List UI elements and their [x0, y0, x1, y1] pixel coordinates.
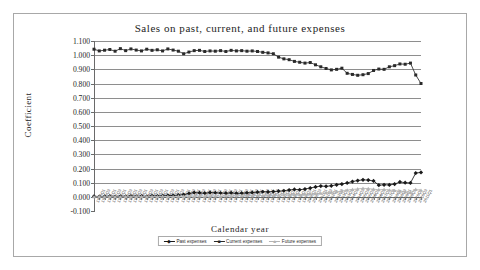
data-point-marker [356, 74, 359, 77]
data-point-marker [324, 184, 328, 188]
data-point-marker [329, 184, 333, 188]
data-point-marker [182, 52, 185, 55]
data-point-marker [314, 63, 317, 66]
legend-line-swatch: ◆ [164, 241, 175, 242]
data-point-marker [219, 49, 222, 52]
data-point-marker [351, 73, 354, 76]
data-point-marker [276, 189, 280, 193]
data-point-marker [303, 62, 306, 65]
legend-item[interactable]: ■Current expenses [214, 239, 263, 244]
series-layer [94, 41, 421, 211]
data-point-marker [135, 49, 138, 52]
legend-item[interactable]: ▲Future expenses [269, 239, 316, 244]
data-point-marker [267, 51, 270, 54]
data-point-marker [166, 47, 169, 50]
data-point-marker [340, 67, 343, 70]
data-point-marker [292, 187, 296, 191]
data-point-marker [372, 69, 375, 72]
data-point-marker [408, 181, 412, 185]
data-point-marker [277, 56, 280, 59]
data-point-marker [192, 190, 196, 194]
data-point-marker [313, 185, 317, 189]
data-point-marker [377, 68, 380, 71]
data-point-marker [156, 48, 159, 51]
data-point-marker [240, 49, 243, 52]
data-point-marker [382, 183, 386, 187]
legend-label: Past expenses [176, 239, 206, 244]
data-point-marker [367, 72, 370, 75]
data-point-marker [209, 49, 212, 52]
data-point-marker [214, 50, 217, 53]
data-point-marker [172, 49, 175, 52]
data-point-marker [230, 49, 233, 52]
data-point-marker [298, 188, 302, 192]
data-point-marker [151, 49, 154, 52]
data-point-marker [393, 182, 397, 186]
data-point-marker [140, 49, 143, 52]
data-point-marker [272, 52, 275, 55]
data-point-marker [361, 178, 365, 182]
data-point-marker [387, 183, 391, 187]
data-point-marker [330, 68, 333, 71]
data-point-marker [235, 49, 238, 52]
data-point-marker [288, 58, 291, 61]
data-point-marker [187, 51, 190, 54]
data-point-marker [303, 187, 307, 191]
data-point-marker [261, 51, 264, 54]
data-point-marker [145, 48, 148, 51]
data-point-marker [309, 61, 312, 64]
data-point-marker [319, 184, 323, 188]
series-line [94, 49, 421, 84]
data-point-marker [404, 63, 407, 66]
data-point-marker [271, 189, 275, 193]
data-point-marker [361, 73, 364, 76]
chart-legend: ◆Past expenses■Current expenses▲Future e… [158, 236, 322, 246]
data-point-marker [335, 183, 339, 187]
data-point-marker [293, 60, 296, 63]
y-axis-tick-mark [91, 211, 95, 212]
data-point-marker [393, 64, 396, 67]
data-point-marker [340, 182, 344, 186]
data-point-marker [409, 62, 412, 65]
legend-line-swatch: ■ [214, 241, 225, 242]
data-point-marker [319, 65, 322, 68]
data-point-marker [193, 49, 196, 52]
data-point-marker [103, 49, 106, 52]
data-point-marker [287, 188, 291, 192]
data-point-marker [282, 57, 285, 60]
data-point-marker [177, 50, 180, 53]
data-point-marker [345, 181, 349, 185]
x-axis-title: Calendar year [14, 224, 466, 234]
data-point-marker [350, 179, 354, 183]
data-point-marker [414, 74, 417, 77]
data-point-marker [298, 61, 301, 64]
data-point-marker [124, 49, 127, 52]
data-point-marker [366, 178, 370, 182]
legend-item[interactable]: ◆Past expenses [164, 239, 207, 244]
y-axis-title: Coefficient [23, 75, 33, 155]
data-point-marker [266, 190, 270, 194]
data-point-marker [383, 68, 386, 71]
data-point-marker [161, 49, 164, 52]
data-point-marker [398, 180, 402, 184]
data-point-marker [419, 170, 423, 174]
legend-label: Current expenses [226, 239, 262, 244]
data-point-marker [93, 48, 96, 51]
legend-line-swatch: ▲ [269, 241, 280, 242]
data-point-marker [129, 47, 132, 50]
data-point-marker [282, 189, 286, 193]
data-point-marker [420, 82, 423, 85]
data-point-marker [414, 171, 418, 175]
data-point-marker [245, 50, 248, 53]
data-point-marker [256, 50, 259, 53]
data-point-marker [98, 49, 101, 52]
data-point-marker [325, 67, 328, 70]
plot-area: 1.1001.0000.9000.8000.7000.6000.5000.400… [94, 41, 421, 211]
data-point-marker [198, 49, 201, 52]
data-point-marker [398, 62, 401, 65]
data-point-marker [356, 178, 360, 182]
data-point-marker [108, 48, 111, 51]
data-point-marker [114, 50, 117, 53]
series-current-expenses [93, 47, 423, 85]
data-point-marker [261, 190, 265, 194]
